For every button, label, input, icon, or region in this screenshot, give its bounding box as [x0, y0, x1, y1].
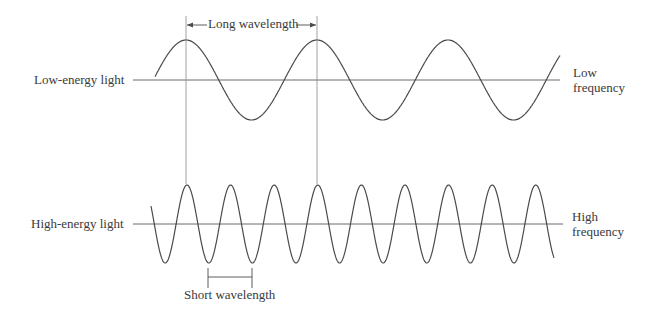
- high-frequency-label-line2: frequency: [572, 224, 624, 240]
- low-frequency-label-line2: frequency: [573, 80, 625, 96]
- short-wavelength-bracket: [208, 268, 252, 288]
- high-frequency-label-line1: High: [572, 209, 598, 225]
- long-wavelength-label: Long wavelength: [208, 16, 299, 32]
- short-wavelength-label: Short wavelength: [184, 287, 275, 303]
- low-energy-light-label: Low-energy light: [34, 72, 124, 88]
- wave-diagram: [0, 0, 660, 318]
- high-energy-light-label: High-energy light: [31, 216, 124, 232]
- low-frequency-label-line1: Low: [573, 65, 597, 81]
